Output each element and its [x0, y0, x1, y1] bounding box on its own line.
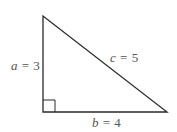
triangle-outline [43, 16, 167, 112]
side-b-label: b = 4 [92, 115, 121, 130]
right-angle-marker [43, 100, 55, 112]
side-a-label: a = 3 [11, 58, 40, 73]
right-triangle-diagram: a = 3 c = 5 b = 4 [0, 0, 177, 132]
side-c-label: c = 5 [110, 50, 138, 65]
